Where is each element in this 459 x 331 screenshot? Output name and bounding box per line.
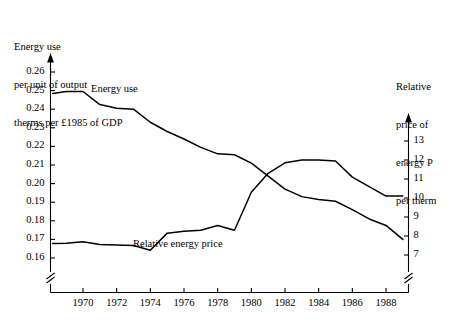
right-axis-tick-label: 8 — [414, 229, 436, 240]
left-axis-tick-label: 0.22 — [13, 139, 45, 150]
right-axis-tick-label: 9 — [414, 210, 436, 221]
series-line-relative-energy-price — [53, 160, 403, 250]
left-axis-tick-label: 0.17 — [13, 232, 45, 243]
right-axis-tick-label: 12 — [414, 153, 436, 164]
left-axis-tick-label: 0.20 — [13, 177, 45, 188]
left-axis-tick-label: 0.21 — [13, 158, 45, 169]
left-axis-tick-label: 0.23 — [13, 121, 45, 132]
left-axis-tick-label: 0.16 — [13, 251, 45, 262]
left-axis-ticks — [51, 72, 56, 258]
plot-canvas — [0, 0, 459, 331]
right-axis-tick-label: 10 — [414, 191, 436, 202]
right-axis-tick-label: 11 — [414, 172, 436, 183]
right-axis-ticks — [404, 141, 409, 255]
left-axis-tick-label: 0.25 — [13, 84, 45, 95]
axes-group — [47, 53, 413, 293]
series-group — [53, 92, 403, 251]
right-axis-tick-label: 7 — [414, 248, 436, 259]
left-axis-tick-label: 0.19 — [13, 195, 45, 206]
left-axis-tick-label: 0.26 — [13, 65, 45, 76]
left-axis-tick-label: 0.24 — [13, 102, 45, 113]
x-axis-ticks — [83, 288, 386, 293]
series-line-energy-use — [53, 92, 403, 240]
chart-figure: Energy use per unit of output therms per… — [0, 0, 459, 331]
left-axis-tick-label: 0.18 — [13, 214, 45, 225]
right-axis-tick-label: 13 — [414, 134, 436, 145]
x-axis-tick-label: 1988 — [366, 297, 406, 308]
